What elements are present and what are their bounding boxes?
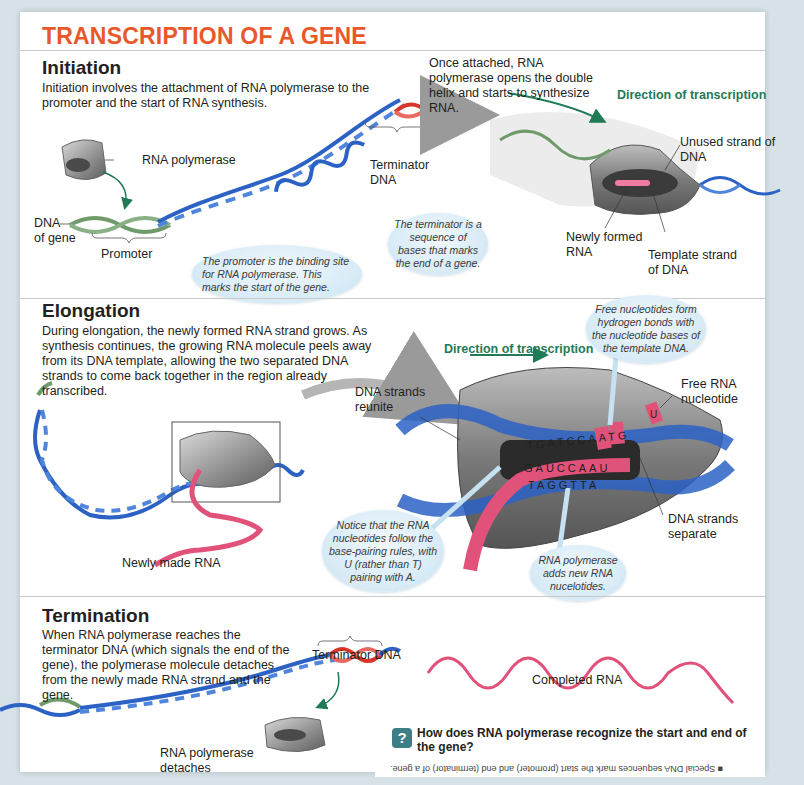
bubble-terminator: The terminator is a sequence of bases th… (388, 213, 488, 275)
seq-rna-strand: GAUCCAAU (524, 461, 610, 476)
label-promoter: Promoter (101, 247, 152, 262)
seq-free-nucleotide: U (650, 407, 657, 422)
bubble-free-nucleotides: Free nucleotides form hydrogen bonds wit… (586, 295, 706, 363)
label-terminator-dna-termination: Terminator DNA (312, 648, 401, 663)
elongation-heading: Elongation (42, 300, 140, 322)
initiation-heading: Initiation (42, 57, 121, 79)
bubble-adds-new: RNA polymerase adds new RNA nucelotides. (530, 545, 626, 601)
page-title: TRANSCRIPTION OF A GENE (42, 23, 367, 50)
label-direction-initiation: Direction of transcription (617, 88, 766, 102)
label-rna-polymerase-detaches-2: detaches (160, 761, 211, 776)
termination-description: When RNA polymerase reaches the terminat… (42, 628, 297, 703)
label-dna-of-gene-2: of gene (34, 231, 76, 246)
question-icon: ? (392, 728, 412, 748)
bubble-base-pairing: Notice that the RNA nucleotides follow t… (322, 510, 444, 592)
bubble-promoter: The promoter is the binding site for RNA… (192, 245, 362, 303)
label-terminator-dna-2: DNA (370, 173, 396, 188)
label-dna-of-gene-1: DNA (34, 216, 60, 231)
title-divider (20, 50, 765, 51)
section-divider-2 (20, 596, 765, 597)
label-once-attached: Once attached, RNA polymerase opens the … (429, 56, 609, 116)
label-direction-elongation: Direction of transcription (444, 342, 593, 356)
polymerase-small-icon (62, 140, 106, 180)
initiation-description: Initiation involves the attachment of RN… (42, 81, 382, 111)
elongation-description: During elongation, the newly formed RNA … (42, 324, 392, 399)
label-completed-rna: Completed RNA (532, 673, 622, 688)
label-terminator-dna-1: Terminator (370, 158, 429, 173)
label-dna-strands-separate: DNA strands separate (668, 512, 748, 542)
label-newly-formed-rna: Newly formed RNA (566, 230, 646, 260)
label-unused-strand: Unused strand of DNA (680, 135, 780, 165)
label-dna-strands-reunite: DNA strands reunite (355, 385, 430, 415)
label-template-strand: Template strand of DNA (648, 248, 738, 278)
label-free-rna-nucleotide: Free RNA nucleotide (681, 377, 756, 407)
question-text: How does RNA polymerase recognize the st… (417, 726, 757, 754)
label-rna-polymerase-detaches-1: RNA polymerase (160, 746, 254, 761)
label-newly-made-rna: Newly made RNA (122, 556, 221, 571)
answer-text-upside-down: ■ Special DNA sequences mark the start (… (390, 764, 723, 774)
label-rna-polymerase: RNA polymerase (142, 153, 236, 168)
termination-heading: Termination (42, 605, 149, 627)
seq-template-strand: TAGGTTA (528, 478, 599, 493)
